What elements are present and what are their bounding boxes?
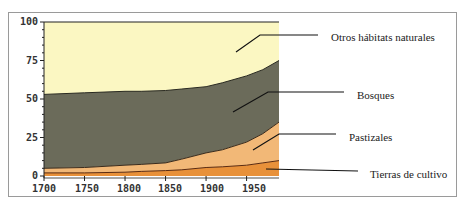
x-tick-label: 1900 xyxy=(200,183,224,194)
x-tick-label: 1700 xyxy=(32,183,56,194)
y-tick-label: 100 xyxy=(20,16,38,27)
legend-label-bosques: Bosques xyxy=(357,89,394,101)
y-tick-label: 25 xyxy=(26,132,38,143)
x-tick-label: 1750 xyxy=(75,183,99,194)
legend-label-otros: Otros hábitats naturales xyxy=(331,31,435,43)
x-tick-label: 1950 xyxy=(242,183,266,194)
y-tick-label: 0 xyxy=(32,170,38,181)
stacked-area-chart: 100 75 50 25 0 1700 1750 1800 1850 1900 … xyxy=(0,0,464,213)
x-tick-label: 1850 xyxy=(158,183,182,194)
x-axis: 1700 1750 1800 1850 1900 1950 xyxy=(32,176,279,194)
y-tick-label: 50 xyxy=(26,93,38,104)
x-tick-label: 1800 xyxy=(117,183,141,194)
leader-line-cultivo xyxy=(266,169,358,171)
y-axis: 100 75 50 25 0 xyxy=(20,16,44,181)
plot-areas xyxy=(44,22,279,176)
legend-label-cultivo: Tierras de cultivo xyxy=(370,168,448,180)
legend: Otros hábitats naturales Bosques Pastiza… xyxy=(331,31,448,180)
legend-label-pastizales: Pastizales xyxy=(349,131,392,143)
y-tick-label: 75 xyxy=(26,55,38,66)
